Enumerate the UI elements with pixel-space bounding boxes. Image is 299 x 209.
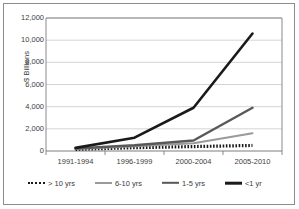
legend-item-1: 6-10 yrs [95,179,142,188]
legend-item-0: > 10 yrs [28,179,75,188]
legend-swatch-icon [162,181,179,185]
gridlines-group [46,18,282,151]
legend-item-3: <1 yr [225,179,262,188]
legend-swatch-icon [225,181,242,185]
x-tick-label: 2000-2004 [164,157,224,166]
chart-legend: > 10 yrs6-10 yrs1-5 yrs<1 yr [28,176,278,190]
x-tick-marks-group [46,151,282,155]
data-series-group [76,34,253,150]
x-tick-label: 1991-1994 [46,157,106,166]
legend-label: 1-5 yrs [182,179,205,188]
series-line-3 [76,34,253,148]
y-tick-label: 0 [8,146,44,155]
legend-label: > 10 yrs [48,179,75,188]
y-tick-label: 12,000 [8,13,44,22]
legend-swatch-icon [95,181,112,185]
chart-figure: 02,0004,0006,0008,00010,00012,000 $ Bill… [0,0,299,209]
y-tick-label: 4,000 [8,102,44,111]
legend-label: 6-10 yrs [115,179,142,188]
chart-plot-area: 02,0004,0006,0008,00010,00012,000 $ Bill… [0,0,299,209]
x-tick-label: 2005-2010 [223,157,283,166]
y-tick-label: 2,000 [8,124,44,133]
x-tick-label: 1996-1999 [105,157,165,166]
legend-label: <1 yr [245,179,262,188]
legend-item-2: 1-5 yrs [162,179,205,188]
y-axis-title: $ Billions [22,37,31,97]
legend-swatch-icon [28,181,45,185]
